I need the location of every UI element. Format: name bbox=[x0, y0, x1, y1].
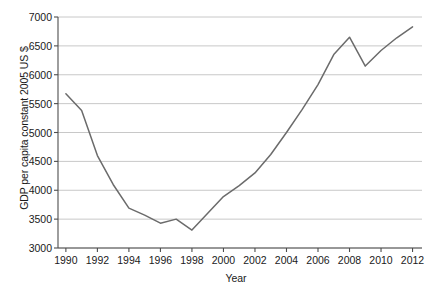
y-tick-label: 6500 bbox=[16, 41, 52, 51]
y-tick-label: 6000 bbox=[16, 70, 52, 80]
x-tick-label: 1992 bbox=[80, 255, 114, 265]
x-tick-label: 2004 bbox=[269, 255, 303, 265]
gridlines bbox=[58, 17, 422, 248]
y-tick-label: 7000 bbox=[16, 12, 52, 22]
x-tick-label: 1990 bbox=[49, 255, 83, 265]
x-tick-label: 1994 bbox=[112, 255, 146, 265]
x-tick-label: 1996 bbox=[143, 255, 177, 265]
y-tick-label: 3500 bbox=[16, 214, 52, 224]
x-tick-label: 2008 bbox=[333, 255, 367, 265]
x-tick-label: 2000 bbox=[206, 255, 240, 265]
y-tick-label: 4500 bbox=[16, 156, 52, 166]
x-tick-label: 2002 bbox=[238, 255, 272, 265]
x-tick-label: 2012 bbox=[396, 255, 430, 265]
x-tick-marks bbox=[66, 248, 413, 252]
y-tick-label: 5000 bbox=[16, 128, 52, 138]
y-tick-marks bbox=[54, 17, 58, 248]
chart-figure: GDP per capita constant 2005 US $ 300035… bbox=[0, 0, 431, 293]
x-tick-label: 2006 bbox=[301, 255, 335, 265]
x-tick-label: 1998 bbox=[175, 255, 209, 265]
y-tick-label: 3000 bbox=[16, 243, 52, 253]
y-tick-label: 5500 bbox=[16, 99, 52, 109]
x-axis-title: Year bbox=[56, 272, 416, 284]
plot-area bbox=[0, 0, 431, 293]
y-tick-label: 4000 bbox=[16, 185, 52, 195]
x-tick-label: 2010 bbox=[364, 255, 398, 265]
data-series-line bbox=[66, 27, 413, 230]
